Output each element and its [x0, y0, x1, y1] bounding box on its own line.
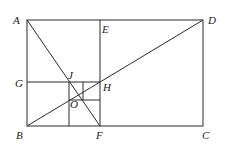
geometry-diagram: A D E G J H O B F C: [0, 0, 227, 159]
label-e: E: [101, 23, 109, 35]
diagonal-af: [27, 20, 100, 126]
label-d: D: [207, 14, 216, 26]
label-b: B: [16, 129, 23, 141]
label-j: J: [68, 69, 74, 81]
label-a: A: [12, 14, 20, 26]
label-h: H: [102, 81, 112, 93]
label-c: C: [202, 129, 210, 141]
label-o: O: [70, 98, 78, 110]
label-g: G: [15, 77, 23, 89]
label-f: F: [95, 129, 103, 141]
diagonal-bd: [27, 20, 203, 126]
